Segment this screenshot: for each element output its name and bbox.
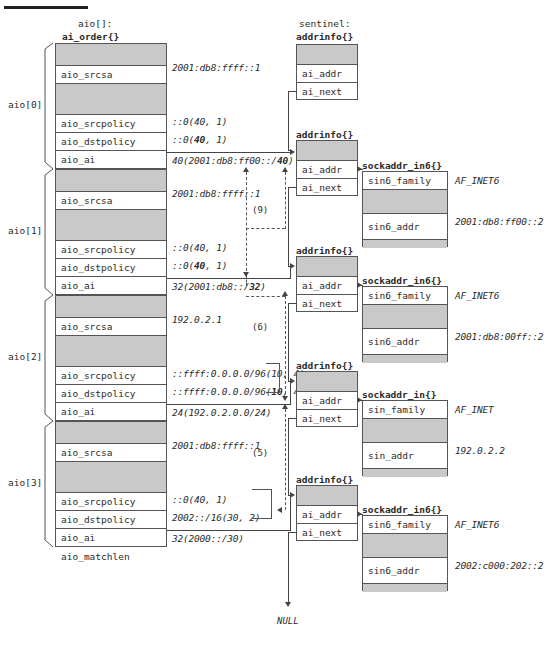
sockaddr-pad-row: [363, 190, 447, 214]
field-ai_next: ai_next: [297, 179, 357, 197]
addrinfo-caption-4: addrinfo{}: [296, 474, 353, 485]
dash-6-h: [246, 296, 285, 297]
arrow-5-up: [282, 404, 288, 409]
field-ai_next: ai_next: [297, 524, 357, 542]
arrow-6-dn: [282, 396, 288, 401]
field-sin6_addr: sin6_addr: [363, 214, 447, 240]
aio-index-0: aio[0]: [8, 99, 42, 110]
sockaddr-pad-row: [363, 355, 447, 363]
ainext-1-h: [288, 187, 297, 188]
addrinfo-pad-row: [297, 486, 357, 506]
arrow-5-left: [277, 507, 282, 513]
link-aio2-ai-v: [290, 381, 291, 405]
field-aio_dstpolicy: aio_dstpolicy: [56, 133, 166, 151]
field-aio_srcpolicy: aio_srcpolicy: [56, 241, 166, 259]
arrow-null: [285, 602, 291, 607]
dash-9-v-left: [246, 172, 247, 276]
aio-struct-3: aio_srcsa aio_srcpolicy aio_dstpolicy ai…: [55, 421, 167, 547]
link-aio0-ai: [167, 152, 291, 153]
addrinfo-caption-1: addrinfo{}: [296, 129, 353, 140]
value-aio_matchlen-0: 40(2001:db8:ff00::/40): [172, 155, 293, 166]
value-family-1: AF_INET6: [455, 290, 499, 301]
field-aio_ai: aio_ai: [56, 151, 166, 169]
addrinfo-pad-row: [297, 45, 357, 65]
dash-5-v: [285, 409, 286, 510]
annotation-6: (6): [252, 322, 268, 332]
sockaddr-pad-row: [363, 469, 447, 477]
aio-pad-row: [56, 84, 166, 115]
aio-pad-row: [56, 44, 166, 66]
arrow-aiaddr-2: [357, 397, 362, 403]
addrinfo-pad-row: [297, 141, 357, 161]
field-aio_srcpolicy: aio_srcpolicy: [56, 367, 166, 385]
addrinfo-struct-3: ai_addr ai_next: [296, 371, 358, 427]
ainext-1-v: [288, 187, 289, 266]
value-aio_dstpolicy-0: ::0(40, 1): [172, 134, 227, 145]
ainext-2-v: [288, 303, 289, 381]
sockaddr-pad-row: [363, 240, 447, 248]
link-aio3-ai-v: [290, 495, 291, 531]
field-aio_ai: aio_ai: [56, 277, 166, 295]
dash-9-v-right: [285, 172, 286, 229]
field-sin_family: sin_family: [363, 401, 447, 419]
array-caption-line2: ai_order{}: [62, 31, 119, 42]
field-sin6_family: sin6_family: [363, 516, 447, 534]
field-aio_matchlen: aio_matchlen: [56, 547, 166, 566]
ainext-2-h2: [288, 381, 292, 382]
field-sin6_addr: sin6_addr: [363, 329, 447, 355]
ainext-2-h: [288, 303, 297, 304]
field-aio_srcpolicy: aio_srcpolicy: [56, 493, 166, 511]
sockaddr-caption-3: sockaddr_in6{}: [362, 504, 442, 515]
field-sin6_family: sin6_family: [363, 287, 447, 305]
ainext-sentinel-v: [288, 91, 289, 150]
sockaddr-caption-0: sockaddr_in6{}: [362, 160, 442, 171]
sockaddr-pad-row: [363, 584, 447, 592]
field-ai_addr: ai_addr: [297, 506, 357, 524]
value-aio_srcpolicy-3: ::0(40, 1): [172, 494, 227, 505]
addrinfo-caption-3: addrinfo{}: [296, 360, 353, 371]
arrow-6-up: [282, 291, 288, 296]
field-aio_srcsa: aio_srcsa: [56, 192, 166, 210]
field-sin_addr: sin_addr: [363, 443, 447, 469]
field-aio_ai: aio_ai: [56, 529, 166, 547]
sockaddr-caption-1: sockaddr_in6{}: [362, 275, 442, 286]
value-family-2: AF_INET: [455, 404, 494, 415]
addrinfo-struct-2: ai_addr ai_next: [296, 256, 358, 312]
value-aio_srcsa-3: 2001:db8:ffff::1: [172, 440, 260, 451]
link-aio2-ai: [167, 404, 291, 405]
sockaddr-pad-row: [363, 305, 447, 329]
field-aio_srcsa: aio_srcsa: [56, 318, 166, 336]
aio-pad-row: [56, 462, 166, 493]
field-aio_dstpolicy: aio_dstpolicy: [56, 511, 166, 529]
field-ai_next: ai_next: [297, 83, 357, 101]
value-aio_srcpolicy-0: ::0(40, 1): [172, 116, 227, 127]
aio-struct-0: aio_srcsa aio_srcpolicy aio_dstpolicy ai…: [55, 43, 167, 169]
field-aio_dstpolicy: aio_dstpolicy: [56, 259, 166, 277]
value-addr-3: 2002:c000:202::2: [455, 560, 543, 571]
addrinfo-caption-2: addrinfo{}: [296, 245, 353, 256]
aio-index-3: aio[3]: [8, 477, 42, 488]
value-family-0: AF_INET6: [455, 175, 499, 186]
dash-9-h: [246, 228, 285, 229]
policy-bracket-3: [252, 489, 272, 519]
field-ai_addr: ai_addr: [297, 392, 357, 410]
value-aio_matchlen-2: 24(192.0.2.0.0/24): [172, 407, 271, 418]
ainext-3-h2: [288, 495, 292, 496]
sockaddr-struct-3: sin6_family sin6_addr: [362, 515, 448, 591]
sockaddr-struct-1: sin6_family sin6_addr: [362, 286, 448, 362]
sockaddr-pad-row: [363, 419, 447, 443]
ainext-4-v: [288, 532, 289, 603]
aio-pad-row: [56, 210, 166, 241]
link-aio3-ai: [167, 530, 291, 531]
sockaddr-pad-row: [363, 534, 447, 558]
ainext-sentinel-h: [288, 91, 297, 92]
aio-pad-row: [56, 422, 166, 444]
value-aio_srcpolicy-1: ::0(40, 1): [172, 242, 227, 253]
ainext-3-h: [288, 418, 297, 419]
value-aio_matchlen-1: 32(2001:db8::/32): [172, 281, 266, 292]
field-ai_addr: ai_addr: [297, 65, 357, 83]
sockaddr-caption-2: sockaddr_in{}: [362, 389, 436, 400]
field-ai_addr: ai_addr: [297, 277, 357, 295]
field-aio_ai: aio_ai: [56, 403, 166, 421]
arrow-aiaddr-3: [357, 511, 362, 517]
